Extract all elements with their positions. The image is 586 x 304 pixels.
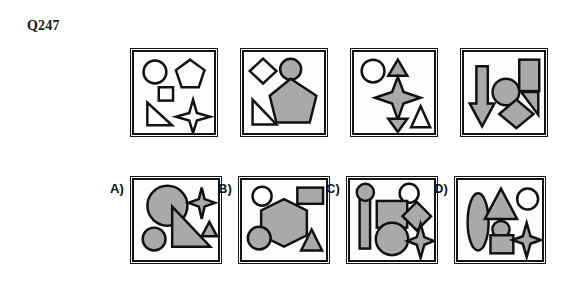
circle-shape xyxy=(517,189,538,210)
square-shape xyxy=(490,235,513,253)
four-point-star-shape xyxy=(512,223,541,257)
pentagon-shape xyxy=(270,79,317,123)
square-shape xyxy=(159,87,173,100)
circle-shape xyxy=(280,59,301,80)
rectangle-shape xyxy=(297,188,323,204)
diamond-shape xyxy=(250,59,277,84)
sequence-panel-3[interactable] xyxy=(352,50,436,135)
page-title: Q247 xyxy=(27,18,60,34)
answer-letter-b: B) xyxy=(218,181,232,196)
down-arrow-shape xyxy=(470,66,495,126)
answer-option-d[interactable] xyxy=(456,178,544,262)
answer-letter-c: C) xyxy=(326,181,340,196)
four-point-star-shape xyxy=(176,100,210,133)
answer-option-c[interactable] xyxy=(348,178,436,262)
answer-option-b[interactable] xyxy=(240,178,328,262)
circle-filled-shape xyxy=(376,223,408,255)
answer-option-a[interactable] xyxy=(132,178,220,262)
vertical-bar-shape xyxy=(360,195,370,248)
triangle-up-shape xyxy=(485,189,517,219)
triangle-up-shape xyxy=(202,222,217,236)
pentagon-shape xyxy=(176,60,205,88)
circle-small-shape xyxy=(143,228,166,251)
answer-letter-a: A) xyxy=(110,181,124,196)
circle-shape xyxy=(362,60,385,83)
rectangle-shape xyxy=(519,60,539,91)
puzzle-page: Q247 xyxy=(0,0,586,304)
four-point-star-shape xyxy=(407,224,434,258)
four-point-star-shape xyxy=(188,188,215,219)
triangle-up-outline-shape xyxy=(411,106,430,127)
triangle-down-shape xyxy=(388,119,407,132)
circle-shape xyxy=(253,187,272,206)
answer-letter-d: D) xyxy=(434,181,448,196)
sequence-panel-4[interactable] xyxy=(462,50,546,135)
right-triangle-shape xyxy=(172,207,210,247)
sequence-panel-2[interactable] xyxy=(242,50,326,135)
circle-filled-shape xyxy=(248,227,271,250)
sequence-panel-1[interactable] xyxy=(132,50,216,135)
right-triangle-shape xyxy=(147,103,172,126)
pin-circle-shape xyxy=(357,184,374,201)
ellipse-shape xyxy=(468,193,489,250)
circle-shape xyxy=(144,61,167,84)
four-point-star-shape xyxy=(375,77,421,120)
